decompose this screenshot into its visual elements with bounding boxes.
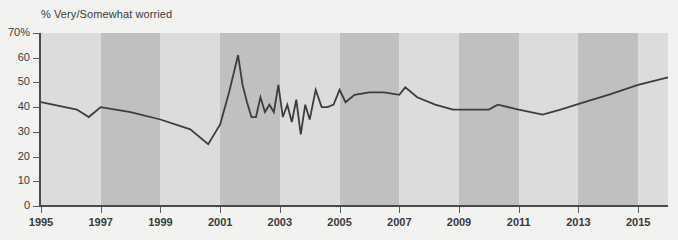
y-axis-tick-label: 30 bbox=[0, 125, 30, 137]
x-axis-tick bbox=[160, 207, 161, 213]
x-axis-tick bbox=[101, 207, 102, 213]
x-axis-tick-label: 1997 bbox=[88, 216, 112, 228]
y-axis-tick bbox=[33, 33, 39, 34]
y-axis-tick bbox=[33, 132, 39, 133]
x-axis-tick-label: 2013 bbox=[566, 216, 590, 228]
chart-axis-title: % Very/Somewhat worried bbox=[41, 8, 172, 20]
y-axis-tick-label: 10 bbox=[0, 174, 30, 186]
y-axis-tick bbox=[33, 58, 39, 59]
x-axis-tick bbox=[519, 207, 520, 213]
y-axis-tick bbox=[33, 82, 39, 83]
x-axis-tick-label: 1995 bbox=[29, 216, 53, 228]
x-axis-tick bbox=[220, 207, 221, 213]
x-axis-tick bbox=[459, 207, 460, 213]
x-axis-tick bbox=[280, 207, 281, 213]
x-axis-tick-label: 1999 bbox=[148, 216, 172, 228]
x-axis-tick-label: 2001 bbox=[208, 216, 232, 228]
y-axis-tick bbox=[33, 181, 39, 182]
x-axis-tick bbox=[399, 207, 400, 213]
x-axis-tick-label: 2011 bbox=[507, 216, 531, 228]
series-polyline bbox=[41, 55, 668, 144]
plot-area bbox=[41, 33, 668, 206]
y-axis-tick bbox=[33, 107, 39, 108]
y-axis-tick bbox=[33, 157, 39, 158]
x-axis-tick bbox=[578, 207, 579, 213]
y-axis-tick-label: 70% bbox=[0, 26, 30, 38]
x-axis-tick-label: 2009 bbox=[447, 216, 471, 228]
x-axis-tick bbox=[638, 207, 639, 213]
x-axis-tick-label: 2005 bbox=[327, 216, 351, 228]
x-axis-tick-label: 2003 bbox=[268, 216, 292, 228]
y-axis-tick bbox=[33, 206, 39, 207]
y-axis-tick-label: 0 bbox=[0, 199, 30, 211]
series-line-chart bbox=[41, 33, 668, 206]
x-axis-tick bbox=[41, 207, 42, 213]
x-axis-line bbox=[39, 205, 668, 207]
chart-container: % Very/Somewhat worried 010203040506070%… bbox=[0, 0, 678, 240]
x-axis-tick-label: 2007 bbox=[387, 216, 411, 228]
y-axis-tick-label: 60 bbox=[0, 51, 30, 63]
x-axis-tick-label: 2015 bbox=[626, 216, 650, 228]
y-axis-tick-label: 20 bbox=[0, 150, 30, 162]
y-axis-tick-label: 50 bbox=[0, 75, 30, 87]
x-axis-tick bbox=[340, 207, 341, 213]
y-axis-tick-label: 40 bbox=[0, 100, 30, 112]
y-axis-line bbox=[39, 33, 41, 207]
